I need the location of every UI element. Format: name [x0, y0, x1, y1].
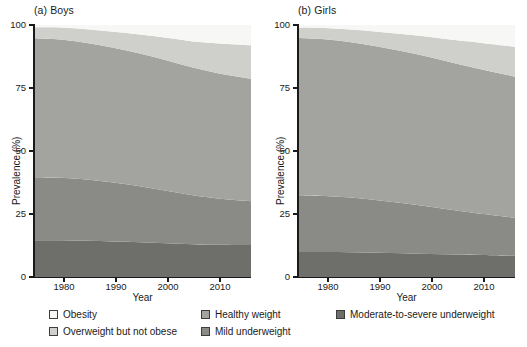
y-axis-line-boys — [33, 24, 35, 278]
plot-area-girls — [298, 25, 515, 277]
y-tick-75 — [29, 87, 33, 89]
area-band-moderate-to-severe-underweight — [298, 252, 515, 277]
x-axis-title-boys: Year — [34, 292, 251, 303]
legend-item-mild-underweight[interactable]: Mild underweight — [201, 326, 291, 337]
legend-label-obesity: Obesity — [63, 309, 97, 320]
legend-swatch-overweight-icon — [49, 327, 58, 336]
y-label-100: 100 — [2, 19, 26, 30]
x-label-2010: 2010 — [464, 281, 504, 292]
y-tick-100 — [293, 24, 297, 26]
legend-swatch-healthy-weight-icon — [201, 310, 210, 319]
y-tick-75 — [293, 87, 297, 89]
panel-girls: (b) Girls 0 25 50 75 100 1980 1990 2000 … — [264, 0, 527, 300]
x-label-1980: 1980 — [44, 281, 84, 292]
legend: Obesity Overweight but not obese Healthy… — [0, 307, 527, 347]
legend-item-moderate-to-severe-underweight[interactable]: Moderate-to-severe underweight — [336, 309, 495, 320]
y-label-75: 75 — [266, 82, 290, 93]
x-label-1980: 1980 — [308, 281, 348, 292]
y-tick-100 — [29, 24, 33, 26]
panel-title-girls: (b) Girls — [298, 4, 336, 16]
figure-root: (a) Boys 0 25 50 75 100 1980 1990 2000 2… — [0, 0, 527, 347]
y-tick-25 — [293, 213, 297, 215]
y-tick-50 — [293, 150, 297, 152]
y-tick-50 — [29, 150, 33, 152]
x-label-2000: 2000 — [148, 281, 188, 292]
x-label-1990: 1990 — [96, 281, 136, 292]
legend-item-healthy-weight[interactable]: Healthy weight — [201, 309, 281, 320]
legend-label-mild-underweight: Mild underweight — [215, 326, 291, 337]
legend-swatch-moderate-to-severe-underweight-icon — [336, 310, 345, 319]
y-tick-0 — [293, 276, 297, 278]
stacked-area-girls — [298, 25, 515, 277]
y-label-25: 25 — [2, 208, 26, 219]
legend-item-overweight[interactable]: Overweight but not obese — [49, 326, 177, 337]
y-axis-line-girls — [297, 24, 299, 278]
x-label-1990: 1990 — [360, 281, 400, 292]
x-label-2010: 2010 — [200, 281, 240, 292]
panel-title-boys: (a) Boys — [34, 4, 74, 16]
y-tick-25 — [29, 213, 33, 215]
y-axis-title-girls: Prevalence (%) — [275, 137, 286, 205]
legend-label-healthy-weight: Healthy weight — [215, 309, 281, 320]
y-tick-0 — [29, 276, 33, 278]
x-label-2000: 2000 — [412, 281, 452, 292]
legend-swatch-mild-underweight-icon — [201, 327, 210, 336]
area-band-moderate-to-severe-underweight — [34, 240, 251, 277]
y-label-75: 75 — [2, 82, 26, 93]
legend-label-overweight: Overweight but not obese — [63, 326, 177, 337]
plot-area-boys — [34, 25, 251, 277]
legend-label-moderate-to-severe-underweight: Moderate-to-severe underweight — [350, 309, 495, 320]
x-axis-title-girls: Year — [298, 292, 515, 303]
legend-swatch-obesity-icon — [49, 310, 58, 319]
y-label-25: 25 — [266, 208, 290, 219]
y-label-100: 100 — [266, 19, 290, 30]
stacked-area-boys — [34, 25, 251, 277]
y-label-0: 0 — [266, 271, 290, 282]
y-label-0: 0 — [2, 271, 26, 282]
legend-item-obesity[interactable]: Obesity — [49, 309, 97, 320]
y-axis-title-boys: Prevalence (%) — [11, 137, 22, 205]
panel-boys: (a) Boys 0 25 50 75 100 1980 1990 2000 2… — [0, 0, 263, 300]
